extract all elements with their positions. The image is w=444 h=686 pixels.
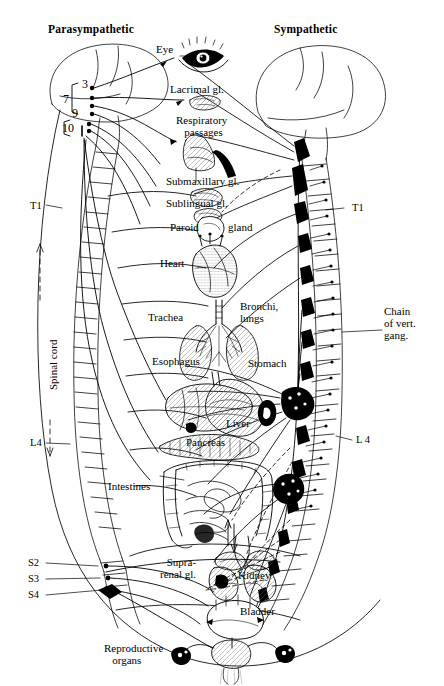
chain-of-vertebral-ganglia-label: Chain of vert. gang. — [384, 305, 416, 341]
parotid-gland-drawing — [197, 216, 224, 241]
spinal-level-t1-left: T1 — [30, 200, 42, 212]
spleen-drawing — [258, 400, 276, 426]
spinal-level-s4: S4 — [28, 589, 39, 601]
organ-label-bladder: Bladder — [240, 606, 275, 618]
spinal-level-s2: S2 — [28, 557, 39, 569]
eye-drawing — [179, 37, 228, 72]
brain-right — [256, 46, 385, 160]
organ-label-lacrimal-gland: Lacrimal gl. — [170, 84, 224, 96]
organ-label-stomach: Stomach — [248, 358, 287, 370]
organ-label-kidney: Kidney — [238, 570, 270, 582]
organ-label-intestines: Intestines — [108, 481, 150, 493]
organ-label-suprarenal-gland: Supra- renal gl. — [160, 556, 196, 580]
cranial-nerve-10-label: 10 — [62, 123, 74, 135]
cranial-nerve-9-label: 9 — [72, 108, 78, 120]
header-parasympathetic: Parasympathetic — [48, 24, 134, 36]
spinal-level-s3: S3 — [28, 573, 39, 585]
autonomic-nervous-system-figure: Parasympathetic Sympathetic 3 7 9 10 T1 … — [0, 0, 444, 686]
organ-label-esophagus: Esophagus — [152, 356, 200, 368]
celiac-ganglion — [281, 387, 314, 420]
organ-label-sublingual-gland: Sublingual gl. — [166, 198, 228, 210]
organ-label-reproductive-organs: Reproductive organs — [104, 642, 163, 666]
spinal-level-l4-left: L4 — [30, 437, 42, 449]
organ-label-bronchi-lungs: Bronchi, lungs — [240, 300, 278, 324]
vagus-nerve-trunk — [81, 138, 166, 480]
lacrimal-gland-drawing — [190, 96, 221, 111]
organ-label-submaxillary-gland: Submaxillary gl. — [166, 176, 239, 188]
organ-label-parotid-gland-right: gland — [228, 222, 252, 234]
organ-label-trachea: Trachea — [148, 312, 183, 324]
cranial-nerve-7-label: 7 — [63, 94, 69, 106]
organ-label-respiratory-passages: Respiratory passages — [176, 114, 227, 138]
spinal-level-l4-right: L 4 — [356, 434, 370, 446]
spinal-level-t1-right: T1 — [352, 202, 364, 214]
header-sympathetic: Sympathetic — [274, 24, 338, 36]
organ-label-heart: Heart — [160, 258, 184, 270]
organ-label-pancreas: Pancreas — [186, 437, 225, 449]
organ-label-eye: Eye — [156, 44, 173, 56]
cranial-nerve-3-label: 3 — [82, 79, 88, 91]
organ-label-liver: Liver — [226, 418, 250, 430]
organ-label-parotid-gland-left: Paroid — [170, 222, 199, 234]
heart-drawing — [193, 232, 237, 297]
spinal-cord-label: Spinal cord — [48, 340, 60, 390]
